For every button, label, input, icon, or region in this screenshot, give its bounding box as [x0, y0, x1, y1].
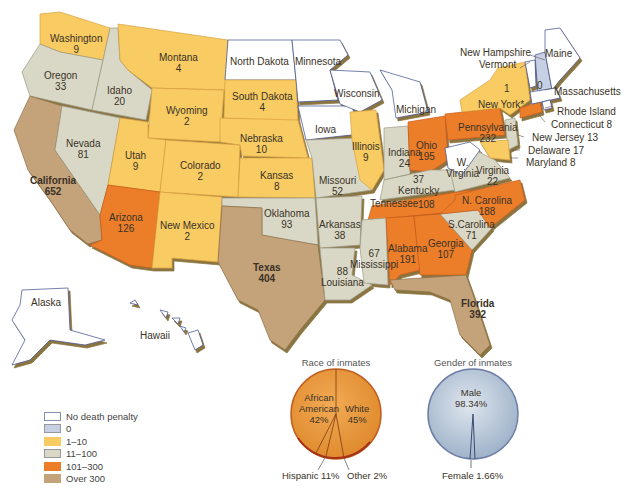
legend-item-1-10: 1–10: [44, 435, 138, 448]
label-new-york-value: 1: [504, 83, 510, 94]
swatch-icon: [44, 412, 61, 421]
label-wisconsin: Wisconsin: [334, 88, 380, 99]
label-oregon: Oregon33: [44, 70, 77, 92]
label-massachusetts: Massachusetts: [554, 86, 621, 97]
label-new-hampshire: New Hampshire: [460, 47, 531, 58]
label-vermont: Vermont: [479, 59, 516, 70]
label-tennessee-value: 108: [418, 199, 435, 210]
label-california: California652: [30, 175, 76, 197]
label-arizona: Arizona126: [109, 212, 143, 234]
label-ohio: Ohio195: [416, 140, 437, 162]
label-utah: Utah9: [125, 150, 146, 172]
label-south-dakota: South Dakota4: [232, 91, 293, 113]
state-hawaii: [130, 300, 203, 350]
pie-race-label-african-american: AfricanAmerican42%: [299, 392, 339, 425]
swatch-icon: [44, 449, 61, 458]
legend-label: 11–100: [66, 448, 97, 459]
label-kansas: Kansas8: [260, 170, 293, 192]
pie-race-label-hispanic: Hispanic 11%: [282, 470, 339, 481]
label-florida: Florida392: [461, 298, 494, 320]
label-iowa: Iowa: [315, 124, 336, 135]
label-texas: Texas404: [253, 262, 281, 284]
legend-label: Over 300: [66, 473, 105, 484]
label-hawaii: Hawaii: [140, 330, 170, 341]
legend-label: 1–10: [66, 436, 87, 447]
label-north-carolina: N. Carolina188: [462, 195, 512, 217]
swatch-icon: [44, 474, 61, 483]
legend-item-zero: 0: [44, 423, 138, 436]
label-north-dakota: North Dakota: [230, 56, 289, 67]
label-tennessee: Tennessee: [370, 198, 418, 209]
legend-label: 101–300: [66, 461, 103, 472]
label-south-carolina: S.Carolina71: [448, 219, 495, 241]
label-montana: Montana4: [159, 52, 198, 74]
legend-label: No death penalty: [66, 411, 138, 422]
pie-gender-title: Gender of inmates: [420, 357, 526, 368]
label-west-virginia: W.Virginia: [446, 157, 479, 179]
label-alaska: Alaska: [31, 297, 61, 308]
label-new-york: New York*: [478, 99, 524, 110]
legend-item-101-300: 101–300: [44, 460, 138, 473]
label-virginia: Virginia22: [476, 165, 509, 187]
state-maine: [545, 28, 580, 90]
label-maine: Maine: [545, 48, 572, 59]
pie-race-label-white: White45%: [345, 403, 369, 425]
label-minnesota: Minnesota: [295, 56, 341, 67]
swatch-icon: [44, 424, 61, 433]
pie-gender-label-male: Male98.34%: [455, 387, 487, 409]
label-oklahoma: Oklahoma93: [264, 208, 310, 230]
swatch-icon: [44, 437, 61, 446]
legend-item-11-100: 11–100: [44, 448, 138, 461]
label-alabama: Alabama191: [388, 243, 427, 265]
label-idaho: Idaho20: [107, 85, 132, 107]
label-rhode-island: Rhode Island: [557, 106, 616, 117]
label-new-jersey: New Jersey 13: [532, 132, 598, 143]
label-arkansas: Arkansas38: [319, 219, 361, 241]
label-nevada: Nevada81: [66, 138, 100, 160]
map-legend: No death penalty 0 1–10 11–100 101–300 O…: [44, 410, 138, 485]
label-delaware: Delaware 17: [528, 145, 584, 156]
pie-gender-label-female: Female 1.66%: [442, 470, 503, 481]
label-nebraska: Nebraska10: [240, 133, 283, 155]
state-rhode-island: [542, 100, 552, 110]
pie-race-label-other: Other 2%: [347, 470, 387, 481]
label-maryland: Maryland 8: [526, 157, 575, 168]
label-new-hampshire-value: 0: [537, 80, 543, 91]
label-missouri: Missouri52: [319, 175, 356, 197]
label-new-mexico: New Mexico2: [160, 220, 214, 242]
pie-race-title: Race of inmates: [290, 357, 382, 368]
legend-item-over-300: Over 300: [44, 473, 138, 486]
label-washington: Washington9: [50, 33, 102, 55]
pie-gender: [428, 369, 518, 468]
label-pennsylvania: Pennsylvania232: [458, 122, 517, 144]
label-wyoming: Wyoming2: [166, 105, 208, 127]
label-michigan: Michigan: [396, 104, 436, 115]
label-connecticut: Connecticut 8: [551, 119, 612, 130]
label-georgia: Georgia107: [428, 238, 464, 260]
label-colorado: Colorado2: [180, 160, 221, 182]
legend-label: 0: [66, 423, 71, 434]
swatch-icon: [44, 462, 61, 471]
legend-item-no-death-penalty: No death penalty: [44, 410, 138, 423]
label-illinois: Illinois9: [352, 141, 380, 163]
label-kentucky: 37Kentucky: [398, 174, 439, 196]
